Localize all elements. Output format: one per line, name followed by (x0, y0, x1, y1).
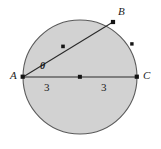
label-point-a: A (10, 70, 17, 81)
label-angle-theta: θ (40, 61, 45, 71)
point-marker-a (21, 75, 25, 79)
point-marker-b (111, 20, 115, 24)
label-right-segment-length: 3 (101, 82, 107, 93)
point-marker-center (78, 75, 82, 79)
point-marker-arc (130, 42, 133, 45)
label-left-segment-length: 3 (44, 82, 50, 93)
figure-canvas (0, 0, 161, 149)
point-marker-chord-midpoint (61, 45, 65, 49)
label-point-c: C (143, 70, 150, 81)
point-marker-c (135, 75, 139, 79)
geometry-figure: A B C θ 3 3 (0, 0, 161, 149)
label-point-b: B (118, 6, 125, 17)
